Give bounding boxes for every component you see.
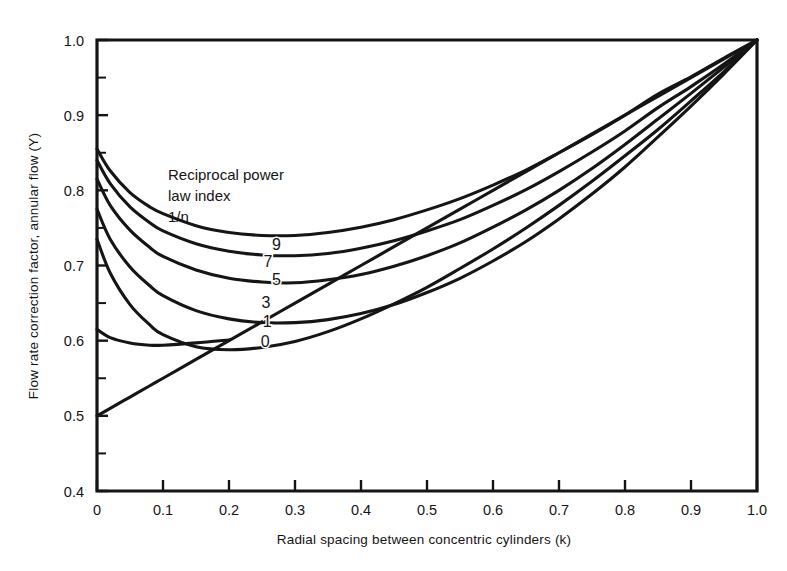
annotation-line-2: law index bbox=[168, 187, 231, 204]
y-tick-label-4: 0.8 bbox=[64, 183, 84, 199]
x-tick-label-3: 0.3 bbox=[285, 502, 305, 518]
curve-label-1: 1 bbox=[263, 313, 272, 330]
curve-label-5: 5 bbox=[272, 271, 281, 288]
y-axis-label: Flow rate correction factor, annular flo… bbox=[26, 133, 41, 399]
x-tick-label-10: 1.0 bbox=[747, 502, 767, 518]
annotation-line-1: Reciprocal power bbox=[168, 166, 284, 183]
y-tick-label-1: 0.5 bbox=[64, 408, 84, 424]
x-tick-label-0: 0 bbox=[93, 502, 101, 518]
x-tick-label-8: 0.8 bbox=[615, 502, 635, 518]
x-tick-label-5: 0.5 bbox=[417, 502, 437, 518]
x-tick-label-7: 0.7 bbox=[549, 502, 569, 518]
x-tick-label-1: 0.1 bbox=[153, 502, 173, 518]
curve-label-7: 7 bbox=[263, 253, 272, 270]
x-tick-label-9: 0.9 bbox=[681, 502, 701, 518]
y-tick-label-2: 0.6 bbox=[64, 333, 84, 349]
x-tick-label-6: 0.6 bbox=[483, 502, 503, 518]
x-axis-label: Radial spacing between concentric cylind… bbox=[277, 532, 572, 547]
curve-label-9: 9 bbox=[272, 236, 281, 253]
x-tick-label-2: 0.2 bbox=[219, 502, 239, 518]
y-tick-label-3: 0.7 bbox=[64, 258, 84, 274]
y-tick-label-0: 0.4 bbox=[64, 484, 84, 500]
chart-figure: 00.10.20.30.40.50.60.70.80.91.0 0.40.50.… bbox=[0, 0, 787, 571]
curve-label-0: 0 bbox=[261, 333, 270, 350]
curve-label-3: 3 bbox=[262, 294, 271, 311]
annotation-line-3: 1/n bbox=[168, 208, 189, 225]
y-tick-label-5: 0.9 bbox=[64, 108, 84, 124]
x-tick-label-4: 0.4 bbox=[351, 502, 371, 518]
y-tick-label-6: 1.0 bbox=[64, 33, 84, 49]
annular-flow-correction-chart: 00.10.20.30.40.50.60.70.80.91.0 0.40.50.… bbox=[0, 0, 787, 571]
